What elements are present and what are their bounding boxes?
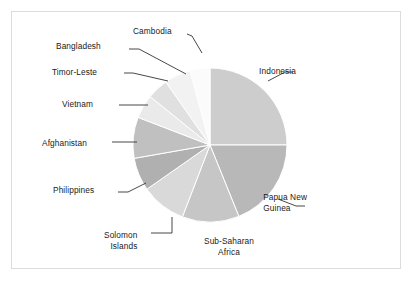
pie-label-papua-new-guinea: Papua New Guinea — [263, 192, 307, 213]
pie-label-timor-leste: Timor-Leste — [52, 67, 97, 78]
leader-line-bangladesh — [129, 49, 186, 74]
leader-line-philippines — [118, 183, 146, 192]
pie-label-cambodia: Cambodia — [133, 26, 172, 37]
pie-label-vietnam: Vietnam — [62, 99, 93, 110]
pie-label-afghanistan: Afghanistan — [42, 138, 87, 149]
leader-line-cambodia — [187, 34, 202, 53]
pie-label-indonesia: Indonesia — [259, 66, 296, 77]
pie-label-sub-saharan-africa: Sub-Saharan Africa — [169, 236, 289, 257]
pie-label-philippines: Philippines — [53, 185, 94, 196]
pie-label-solomon-islands: Solomon Islands — [104, 230, 137, 251]
leader-line-timor-leste — [124, 73, 168, 81]
pie-label-bangladesh: Bangladesh — [56, 41, 101, 52]
leader-line-solomon-islands — [151, 217, 172, 233]
pie-slice-indonesia[interactable] — [210, 68, 287, 145]
